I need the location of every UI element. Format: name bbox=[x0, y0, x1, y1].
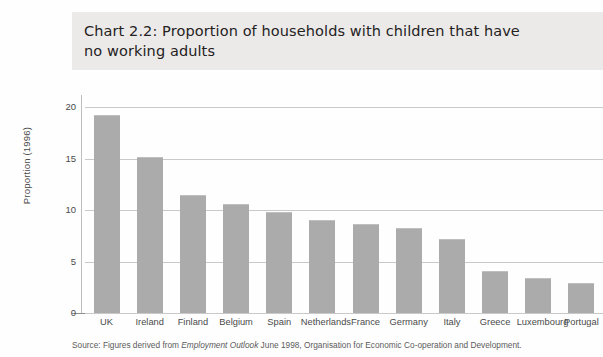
y-axis-line bbox=[81, 95, 82, 314]
source-prefix: Source: Figures derived from bbox=[72, 340, 181, 350]
x-tick-label: France bbox=[344, 317, 387, 327]
x-tick-label: Ireland bbox=[128, 317, 171, 327]
bar bbox=[396, 228, 422, 313]
y-tick-label: 0 bbox=[50, 307, 76, 318]
y-tick-label: 20 bbox=[50, 101, 76, 112]
x-tick-label: Germany bbox=[387, 317, 430, 327]
bar bbox=[137, 157, 163, 313]
bar bbox=[482, 271, 508, 313]
source-suffix: June 1998, Organisation for Economic Co-… bbox=[258, 340, 521, 350]
y-tick-label: 15 bbox=[50, 153, 76, 164]
bar bbox=[309, 220, 335, 313]
y-axis-title: Proportion (1996) bbox=[21, 96, 32, 236]
x-tick-label: Portugal bbox=[560, 317, 603, 327]
chart-title-banner: Chart 2.2: Proportion of households with… bbox=[72, 12, 603, 70]
y-tick-label: 10 bbox=[50, 204, 76, 215]
bar bbox=[568, 283, 594, 313]
bar bbox=[266, 212, 292, 313]
page-title: Chart 2.2: Proportion of households with… bbox=[84, 21, 593, 61]
gridline bbox=[85, 313, 603, 314]
bar bbox=[94, 115, 120, 313]
source-note: Source: Figures derived from Employment … bbox=[72, 340, 522, 350]
gridline bbox=[85, 159, 603, 160]
x-tick-label: Italy bbox=[430, 317, 473, 327]
bar bbox=[439, 239, 465, 313]
gridline bbox=[85, 107, 603, 108]
x-tick-label: Greece bbox=[474, 317, 517, 327]
chart-figure: Chart 2.2: Proportion of households with… bbox=[0, 0, 603, 357]
y-axis-tick-labels: 05101520 bbox=[46, 0, 76, 357]
source-italic-title: Employment Outlook bbox=[181, 340, 258, 350]
y-tick-label: 5 bbox=[50, 256, 76, 267]
x-tick-label: UK bbox=[85, 317, 128, 327]
x-tick-label: Finland bbox=[171, 317, 214, 327]
x-tick-label: Luxembourg bbox=[517, 317, 560, 327]
bar bbox=[525, 278, 551, 313]
gridline bbox=[85, 262, 603, 263]
bar bbox=[223, 204, 249, 313]
x-tick-label: Netherlands bbox=[301, 317, 344, 327]
x-axis-tick-labels: UKIrelandFinlandBelgiumSpainNetherlandsF… bbox=[85, 317, 603, 333]
x-tick-label: Belgium bbox=[215, 317, 258, 327]
bar bbox=[180, 195, 206, 313]
x-tick-label: Spain bbox=[258, 317, 301, 327]
bar bbox=[353, 224, 379, 313]
gridline bbox=[85, 210, 603, 211]
plot-area bbox=[85, 107, 603, 313]
